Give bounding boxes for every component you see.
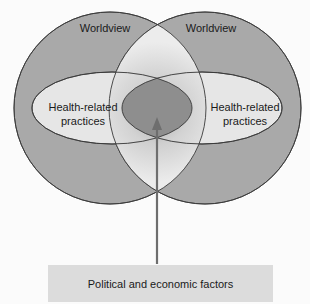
- practices-label-left-line1: Health-related: [38, 100, 128, 114]
- practices-label-right-line1: Health-related: [200, 100, 290, 114]
- diagram-graphics: [0, 0, 310, 304]
- practices-label-right-line2: practices: [200, 114, 290, 128]
- practices-label-left-line2: practices: [38, 114, 128, 128]
- practices-label-right: Health-related practices: [200, 100, 290, 128]
- venn-diagram: Worldview Worldview Health-related pract…: [0, 0, 310, 304]
- practices-label-left: Health-related practices: [38, 100, 128, 128]
- factors-label: Political and economic factors: [88, 278, 234, 290]
- worldview-label-right: Worldview: [176, 21, 246, 35]
- worldview-label-left: Worldview: [70, 21, 140, 35]
- political-economic-factors-box: Political and economic factors: [48, 265, 273, 302]
